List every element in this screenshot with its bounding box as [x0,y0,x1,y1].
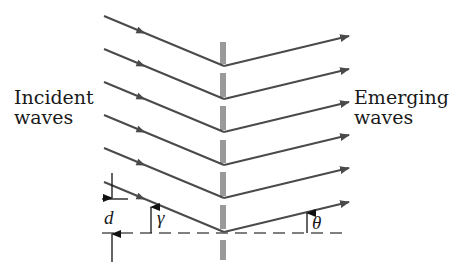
incident-waves-label-line2: waves [14,107,73,127]
incident-arrowheads [136,27,147,203]
spacing-d-label: d [104,208,114,228]
grating [220,42,226,260]
diffraction-diagram [0,0,467,273]
emerging-rays [224,36,349,232]
incident-waves-label-line1: Incident [14,87,94,107]
theta-label: θ [312,213,321,233]
emerging-waves-label-line1: Emerging [354,87,449,107]
emerging-waves-label-line2: waves [354,107,413,127]
gamma-label: γ [157,208,165,228]
